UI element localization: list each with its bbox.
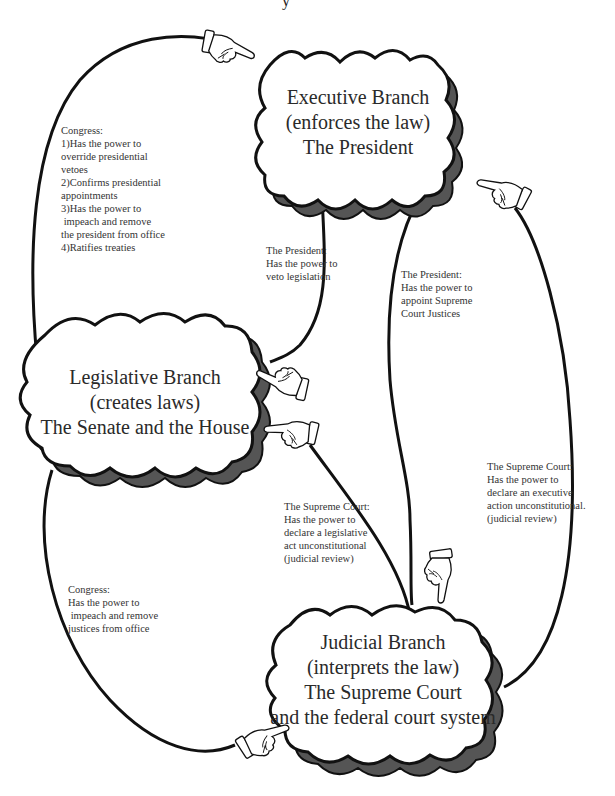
executive-branch-name: Executive Branch bbox=[268, 85, 448, 110]
executive-branch-label: Executive Branch (enforces the law) The … bbox=[268, 85, 448, 160]
note-congress-checks-justices: Congress: Has the power to impeach and r… bbox=[68, 583, 158, 635]
note-line: justices from office bbox=[68, 622, 158, 635]
note-line: Congress: bbox=[61, 124, 165, 137]
note-line: (judicial review) bbox=[487, 512, 586, 525]
judicial-branch-members-2: and the federal court system bbox=[268, 705, 498, 730]
judicial-branch-name: Judicial Branch bbox=[268, 630, 498, 655]
note-line: appoint Supreme bbox=[401, 294, 472, 307]
legislative-branch-role: (creates laws) bbox=[30, 390, 260, 415]
note-line: Has the power to bbox=[401, 281, 472, 294]
note-line: (judicial review) bbox=[284, 552, 370, 565]
pointing-hand-down-icon bbox=[425, 549, 453, 603]
legislative-branch-name: Legislative Branch bbox=[30, 365, 260, 390]
note-president-appoint: The President: Has the power to appoint … bbox=[401, 268, 472, 320]
note-line: override presidential bbox=[61, 150, 165, 163]
note-president-veto: The President: Has the power to veto leg… bbox=[266, 244, 337, 283]
pointing-hand-right-icon bbox=[197, 29, 257, 72]
judicial-branch-label: Judicial Branch (interprets the law) The… bbox=[268, 630, 498, 730]
note-congress-checks-president: Congress: 1)Has the power to override pr… bbox=[61, 124, 165, 254]
executive-branch-members: The President bbox=[268, 135, 448, 160]
pointing-hand-left-icon bbox=[472, 171, 533, 216]
note-line: Has the power to bbox=[487, 473, 586, 486]
legislative-branch-label: Legislative Branch (creates laws) The Se… bbox=[30, 365, 260, 440]
note-line: 4)Ratifies treaties bbox=[61, 241, 165, 254]
judicial-branch-members: The Supreme Court bbox=[268, 680, 498, 705]
note-line: vetoes bbox=[61, 163, 165, 176]
note-line: The Supreme Court: bbox=[284, 500, 370, 513]
note-court-legislative-review: The Supreme Court: Has the power to decl… bbox=[284, 500, 370, 565]
note-line: declare a legislative bbox=[284, 526, 370, 539]
note-line: act unconstitutional bbox=[284, 539, 370, 552]
curve-judicial-to-executive bbox=[504, 208, 572, 687]
note-line: veto legislation bbox=[266, 270, 337, 283]
note-court-executive-review: The Supreme Court: Has the power to decl… bbox=[487, 460, 586, 525]
curve-executive-to-judicial bbox=[389, 196, 420, 605]
note-line: declare an executive bbox=[487, 486, 586, 499]
note-line: the president from office bbox=[61, 228, 165, 241]
note-line: appointments bbox=[61, 189, 165, 202]
note-line: Has the power to bbox=[68, 596, 158, 609]
note-line: Has the power to bbox=[284, 513, 370, 526]
note-line: The President: bbox=[266, 244, 337, 257]
note-line: 1)Has the power to bbox=[61, 137, 165, 150]
legislative-branch-members: The Senate and the House bbox=[30, 415, 260, 440]
note-line: Congress: bbox=[68, 583, 158, 596]
note-line: 3)Has the power to bbox=[61, 202, 165, 215]
note-line: impeach and remove bbox=[68, 609, 158, 622]
judicial-branch-role: (interprets the law) bbox=[268, 655, 498, 680]
note-line: Court Justices bbox=[401, 307, 472, 320]
note-line: The President: bbox=[401, 268, 472, 281]
note-line: impeach and remove bbox=[61, 215, 165, 228]
note-line: The Supreme Court: bbox=[487, 460, 586, 473]
note-line: 2)Confirms presidential bbox=[61, 176, 165, 189]
note-line: Has the power to bbox=[266, 257, 337, 270]
executive-branch-role: (enforces the law) bbox=[268, 110, 448, 135]
note-line: action unconstitutional. bbox=[487, 499, 586, 512]
